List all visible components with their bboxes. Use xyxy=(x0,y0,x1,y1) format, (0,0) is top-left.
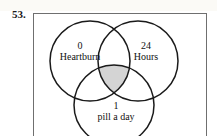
page-canvas: 53. 0 Heartburn 24 Hours 1 pill a d xyxy=(0,0,217,136)
region-label-pill-a-day: 1 pill a day xyxy=(88,101,144,123)
region-word-hours: Hours xyxy=(122,52,170,63)
paper-top-band xyxy=(0,0,217,11)
problem-number-label: 53. xyxy=(12,8,26,20)
region-label-hours: 24 Hours xyxy=(122,41,170,63)
region-word-pill-a-day: pill a day xyxy=(88,112,144,123)
region-label-heartburn: 0 Heartburn xyxy=(48,41,112,63)
region-word-heartburn: Heartburn xyxy=(48,52,112,63)
